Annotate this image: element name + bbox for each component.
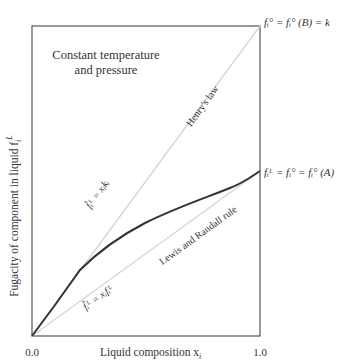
x-axis-label: Liquid composition xi <box>100 346 201 361</box>
x-tick-max: 1.0 <box>253 346 267 358</box>
condition-label-line1: Constant temperature <box>52 48 160 62</box>
fugacity-diagram: Constant temperature and pressure Henry'… <box>0 0 345 364</box>
y-axis-label: Fugacity of component in liquid fiL <box>5 135 23 297</box>
lewis-randall-line <box>32 171 260 336</box>
endpoint-label-top: fᵢ° = fᵢ° (B) = k <box>264 16 331 29</box>
henry-equation-label: f̂ᵢᴸ = xᵢkᵢ <box>82 177 111 210</box>
x-tick-min: 0.0 <box>25 346 39 358</box>
endpoint-label-mid: fᵢᴸ = fᵢ° = fᵢ° (A) <box>264 166 335 179</box>
henry-law-label: Henry's law <box>184 83 221 129</box>
condition-label-line2: and pressure <box>75 63 138 77</box>
